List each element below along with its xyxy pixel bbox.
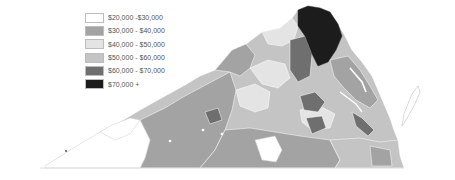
legend-item-20k-30k: $20,000 -$30,000 [85, 11, 165, 24]
legend-item-30k-40k: $30,000 - $40,000 [85, 24, 165, 37]
legend-swatch [85, 13, 104, 23]
city-marker [169, 140, 172, 143]
legend-swatch [85, 79, 104, 89]
legend-label: $50,000 - $60,000 [108, 54, 165, 61]
legend-label: $40,000 - $50,000 [108, 41, 165, 48]
legend-item-60k-70k: $60,000 - $70,000 [85, 64, 165, 77]
legend-swatch [85, 66, 104, 76]
legend-swatch [85, 39, 104, 49]
legend-item-50k-60k: $50,000 - $60,000 [85, 51, 165, 64]
city-marker [65, 150, 67, 152]
legend-label: $30,000 - $40,000 [108, 27, 165, 34]
city-marker [221, 133, 224, 136]
legend-item-40k-50k: $40,000 - $50,000 [85, 38, 165, 51]
legend-label: $60,000 - $70,000 [108, 67, 165, 74]
virginia-income-map [0, 0, 455, 180]
region-eastern-shore [402, 86, 420, 126]
region-southeast [330, 138, 404, 168]
legend-label: $20,000 -$30,000 [108, 14, 163, 21]
city-marker [202, 129, 205, 132]
legend-swatch [85, 53, 104, 63]
legend-label: $70,000 + [108, 81, 139, 88]
legend-swatch [85, 26, 104, 36]
legend-item-70k-plus: $70,000 + [85, 77, 165, 90]
map-legend: $20,000 -$30,000 $30,000 - $40,000 $40,0… [85, 11, 165, 91]
